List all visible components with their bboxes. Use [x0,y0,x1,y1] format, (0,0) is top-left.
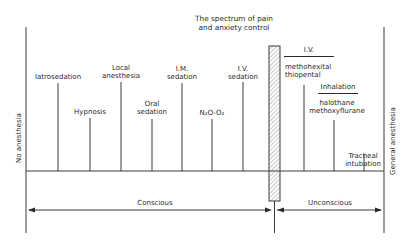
divider-bar [269,46,280,201]
label-iv-sedation: I.V. sedation [221,65,265,81]
label-n2o-o2: N₂O-O₂ [192,109,232,117]
title-line-1: The spectrum of pain [164,14,304,23]
label-im-sedation: I.M. sedation [160,65,204,81]
label-iatrosedation: Iatrosedation [28,73,88,81]
label-no-anesthesia: No anesthesia [15,113,23,163]
label-hypnosis: Hypnosis [70,108,110,116]
label-iv-agents: methohexital thiopental [285,63,345,79]
title-line-2: and anxiety control [164,23,304,32]
label-inhalation: Inhalation [318,83,358,94]
label-iv-general: I.V. [284,46,334,60]
label-general-anesthesia: General anesthesia [389,107,397,175]
diagram-lines [0,0,408,245]
label-tracheal-intubation: Tracheal intubation [340,152,386,168]
label-oral-sedation: Oral sedation [130,100,174,116]
diagram-title: The spectrum of pain and anxiety control [164,14,304,32]
label-unconscious: Unconscious [300,199,360,207]
label-local-anesthesia: Local anesthesia [96,64,146,80]
label-conscious: Conscious [125,199,185,207]
label-inhalation-agents: halothane methoxyflurane [307,99,367,115]
